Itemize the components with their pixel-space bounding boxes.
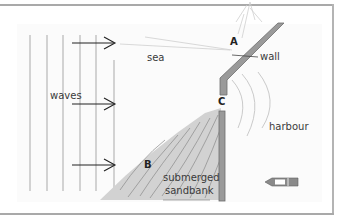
sandbank-label-line1: submerged (163, 172, 220, 183)
harbour-diagram (0, 0, 350, 216)
waves-label: waves (50, 90, 82, 101)
wall-label: wall (260, 51, 280, 62)
harbour-label: harbour (269, 121, 309, 132)
point-a-label: A (230, 36, 238, 47)
boat-icon (265, 178, 298, 186)
point-b-label: B (144, 159, 152, 170)
sea-label: sea (147, 52, 165, 63)
sandbank-label-line2: sandbank (165, 185, 214, 196)
point-c-label: C (218, 96, 225, 107)
